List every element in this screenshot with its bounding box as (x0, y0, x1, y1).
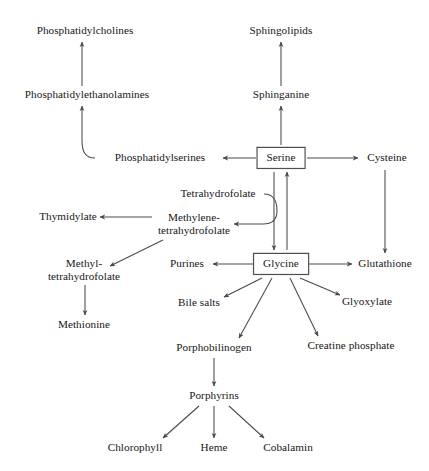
node-sphinganine: Sphinganine (253, 88, 309, 101)
node-phosphatidylserines: Phosphatidylserines (115, 151, 205, 164)
node-label: Phosphatidylserines (115, 151, 205, 163)
edge-glycine-to-porphobilinogen (239, 278, 272, 338)
node-label: Methyl- (66, 257, 102, 269)
node-glycine: Glycine (253, 253, 309, 275)
node-label-line2: tetrahydrofolate (48, 270, 120, 283)
node-thymidylate: Thymidylate (39, 210, 97, 223)
node-label: Chlorophyll (108, 441, 163, 453)
node-label: Methylene- (168, 211, 220, 223)
node-methionine: Methionine (58, 318, 110, 331)
node-porphobilinogen: Porphobilinogen (176, 341, 251, 354)
node-label: Cysteine (367, 151, 407, 163)
node-chlorophyll: Chlorophyll (108, 441, 163, 454)
node-purines: Purines (170, 257, 204, 270)
node-label: Porphobilinogen (176, 341, 251, 353)
edge-glycine-to-creatine-phosphate (290, 278, 318, 336)
edge-porphyrins-to-chlorophyll (163, 406, 199, 438)
node-label: Phosphatidylcholines (37, 24, 134, 36)
node-label: Tetrahydrofolate (180, 187, 255, 199)
node-glyoxylate: Glyoxylate (342, 295, 392, 308)
edge-ps-to-pe (82, 106, 95, 158)
node-porphyrins: Porphyrins (189, 389, 239, 402)
node-bile-salts: Bile salts (178, 296, 220, 309)
node-sphingolipids: Sphingolipids (250, 24, 313, 37)
node-heme: Heme (201, 441, 228, 454)
node-serine: Serine (257, 147, 306, 169)
node-label: Phosphatidylethanolamines (25, 88, 149, 100)
edge-porphyrins-to-cobalamin (229, 406, 264, 438)
node-label: Glutathione (358, 257, 411, 269)
node-label: Methionine (58, 318, 110, 330)
edge-glycine-to-bile-salts (224, 278, 262, 297)
node-cysteine: Cysteine (367, 151, 407, 164)
node-tetrahydrofolate: Tetrahydrofolate (180, 187, 255, 200)
edge-glycine-to-glyoxylate (300, 278, 340, 295)
node-label: Porphyrins (189, 389, 239, 401)
node-label-line2: tetrahydrofolate (158, 224, 230, 237)
node-label: Sphinganine (253, 88, 309, 100)
node-label: Cobalamin (263, 441, 313, 453)
node-label: Creatine phosphate (308, 339, 395, 351)
node-phosphatidylcholines: Phosphatidylcholines (37, 24, 134, 37)
node-label: Thymidylate (39, 210, 97, 222)
node-label: Serine (267, 151, 296, 163)
node-label: Glyoxylate (342, 295, 392, 307)
node-creatine-phosphate: Creatine phosphate (308, 339, 395, 352)
pathway-diagram: Phosphatidylcholines Sphingolipids Phosp… (0, 0, 429, 471)
node-methylene-tetrahydrofolate: Methylene- tetrahydrofolate (158, 211, 230, 237)
node-glutathione: Glutathione (358, 257, 411, 270)
node-methyl-tetrahydrofolate: Methyl- tetrahydrofolate (48, 257, 120, 283)
node-label: Sphingolipids (250, 24, 313, 36)
node-label: Purines (170, 257, 204, 269)
node-label: Bile salts (178, 296, 220, 308)
node-label: Glycine (263, 257, 299, 269)
node-phosphatidylethanolamines: Phosphatidylethanolamines (25, 88, 149, 101)
node-cobalamin: Cobalamin (263, 441, 313, 454)
node-label: Heme (201, 441, 228, 453)
